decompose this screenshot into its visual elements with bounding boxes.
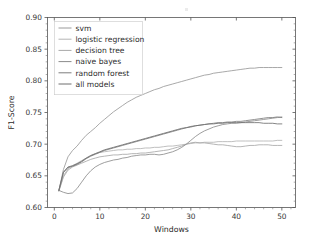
y-tick-label: 0.75 [26, 108, 43, 117]
x-tick-label: 20 [141, 212, 151, 221]
legend-label-logistic-regression: logistic regression [76, 35, 145, 44]
x-tick-label: 50 [277, 212, 287, 221]
y-tick-label: 0.85 [26, 45, 43, 54]
legend-label-decision-tree: decision tree [76, 46, 125, 55]
line-chart: 0.600.650.700.750.800.850.90 01020304050… [0, 0, 316, 242]
x-tick-label: 10 [95, 212, 105, 221]
y-tick-label: 0.60 [26, 203, 43, 212]
y-tick-label: 0.65 [26, 171, 43, 180]
image-artifact [185, 8, 188, 11]
x-axis-label: Windows [154, 225, 189, 234]
y-tick-label: 0.70 [26, 140, 43, 149]
x-tick-label: 40 [232, 212, 242, 221]
y-tick-label: 0.80 [26, 76, 43, 85]
y-tick-label: 0.90 [26, 13, 43, 22]
figure-container: 0.600.650.700.750.800.850.90 01020304050… [0, 0, 316, 242]
legend: svmlogistic regressiondecision treenaive… [55, 22, 145, 95]
legend-label-svm: svm [76, 24, 92, 33]
y-axis-label: F1-Score [7, 95, 16, 129]
x-tick-label: 30 [186, 212, 196, 221]
legend-label-naive-bayes: naive bayes [76, 57, 122, 66]
x-tick-label: 0 [52, 212, 57, 221]
legend-label-all-models: all models [76, 80, 115, 89]
legend-label-random-forest: random forest [76, 69, 130, 78]
